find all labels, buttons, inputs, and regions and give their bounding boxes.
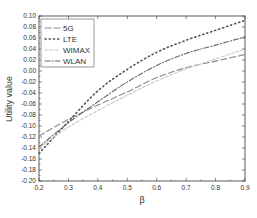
legend-label-lte: LTE	[63, 35, 77, 44]
y-tick-label: -0.06	[21, 100, 36, 107]
x-tick-label: 0.5	[123, 184, 132, 191]
y-tick-label: 0.06	[23, 34, 36, 41]
legend-label-wimax: WIMAX	[63, 46, 91, 55]
y-tick-label: 0.10	[23, 12, 36, 19]
line-chart: 0.100.080.060.040.020.00-0.02-0.04-0.06-…	[0, 0, 257, 218]
y-tick-label: -0.12	[21, 133, 36, 140]
y-tick-label: -0.02	[21, 78, 36, 85]
x-axis-title: β	[139, 195, 144, 205]
x-tick-label: 0.8	[211, 184, 220, 191]
y-tick-label: -0.10	[21, 122, 36, 129]
x-tick-label: 0.2	[34, 184, 43, 191]
y-axis-title: Utility value	[4, 76, 14, 122]
y-tick-label: 0.00	[23, 67, 36, 74]
x-tick-label: 0.3	[64, 184, 73, 191]
legend-label-5g: 5G	[63, 24, 74, 33]
y-tick-label: 0.08	[23, 23, 36, 30]
y-tick-label: -0.14	[21, 144, 36, 151]
legend-label-wlan: WLAN	[63, 57, 86, 66]
y-tick-label: 0.04	[23, 45, 36, 52]
y-tick-label: -0.16	[21, 155, 36, 162]
y-tick-label: -0.04	[21, 89, 36, 96]
x-tick-label: 0.7	[182, 184, 191, 191]
x-tick-label: 0.6	[152, 184, 161, 191]
y-tick-label: -0.08	[21, 111, 36, 118]
x-tick-label: 0.4	[93, 184, 102, 191]
y-tick-label: 0.02	[23, 56, 36, 63]
legend: 5GLTEWIMAXWLAN	[41, 19, 94, 67]
y-tick-label: -0.18	[21, 166, 36, 173]
x-tick-label: 0.9	[240, 184, 249, 191]
